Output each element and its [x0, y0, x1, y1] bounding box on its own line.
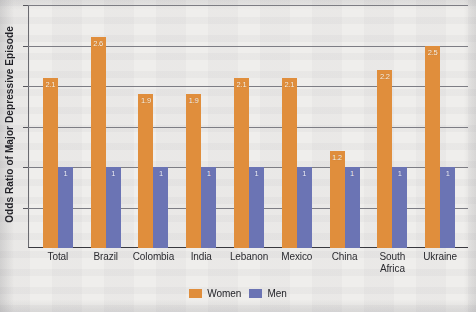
bar-groups: 2.112.611.911.912.112.111.212.212.51 — [28, 5, 468, 248]
x-axis-label-total: Total — [34, 251, 82, 274]
bar-men-china[interactable]: 1 — [345, 167, 360, 248]
bar-value-label: 1.9 — [186, 97, 201, 105]
bar-group: 2.11 — [273, 5, 321, 248]
bar-value-label: 1 — [297, 170, 312, 178]
bar-men-mexico[interactable]: 1 — [297, 167, 312, 248]
bar-men-brazil[interactable]: 1 — [106, 167, 121, 248]
bar-women-brazil[interactable]: 2.6 — [91, 37, 106, 248]
y-axis-title: Odds Ratio of Major Depressive Episode — [0, 0, 20, 248]
x-axis-label-india: India — [177, 251, 225, 274]
bar-value-label: 1.9 — [138, 97, 153, 105]
bar-men-lebanon[interactable]: 1 — [249, 167, 264, 248]
plot-area: 2.112.611.911.912.112.111.212.212.51 — [28, 5, 468, 248]
x-axis-label-ukraine: Ukraine — [416, 251, 464, 274]
bar-value-label: 1.2 — [330, 154, 345, 162]
bar-value-label: 2.6 — [91, 40, 106, 48]
x-axis-label-colombia: Colombia — [130, 251, 178, 274]
women-swatch — [189, 289, 202, 298]
bar-group: 2.61 — [82, 5, 130, 248]
bar-value-label: 1 — [153, 170, 168, 178]
legend-item-women[interactable]: Women — [189, 288, 241, 299]
bar-men-india[interactable]: 1 — [201, 167, 216, 248]
bar-men-south-africa[interactable]: 1 — [392, 167, 407, 248]
bar-group: 2.11 — [225, 5, 273, 248]
bar-value-label: 2.2 — [377, 73, 392, 81]
bar-women-ukraine[interactable]: 2.5 — [425, 46, 440, 249]
bar-women-china[interactable]: 1.2 — [330, 151, 345, 248]
bar-men-colombia[interactable]: 1 — [153, 167, 168, 248]
bar-group: 1.91 — [177, 5, 225, 248]
men-swatch — [249, 289, 262, 298]
legend-label: Men — [267, 288, 286, 299]
bar-group: 1.91 — [130, 5, 178, 248]
x-axis-category-labels: TotalBrazilColombiaIndiaLebanonMexicoChi… — [28, 251, 468, 274]
bar-value-label: 2.1 — [282, 81, 297, 89]
bar-group: 2.11 — [34, 5, 82, 248]
bar-group: 1.21 — [321, 5, 369, 248]
y-axis-title-label: Odds Ratio of Major Depressive Episode — [4, 26, 15, 223]
bar-value-label: 1 — [249, 170, 264, 178]
chart-legend: WomenMen — [0, 288, 476, 299]
bar-value-label: 1 — [58, 170, 73, 178]
x-axis-label-south-africa: SouthAfrica — [368, 251, 416, 274]
bar-value-label: 2.1 — [43, 81, 58, 89]
bar-value-label: 1 — [392, 170, 407, 178]
bar-women-lebanon[interactable]: 2.1 — [234, 78, 249, 248]
bar-value-label: 2.1 — [234, 81, 249, 89]
bar-women-south-africa[interactable]: 2.2 — [377, 70, 392, 248]
legend-label: Women — [207, 288, 241, 299]
x-axis-label-lebanon: Lebanon — [225, 251, 273, 274]
bar-women-india[interactable]: 1.9 — [186, 94, 201, 248]
bar-group: 2.21 — [368, 5, 416, 248]
x-axis-label-brazil: Brazil — [82, 251, 130, 274]
bar-group: 2.51 — [416, 5, 464, 248]
x-axis-label-mexico: Mexico — [273, 251, 321, 274]
bar-women-colombia[interactable]: 1.9 — [138, 94, 153, 248]
legend-item-men[interactable]: Men — [249, 288, 286, 299]
bar-value-label: 1 — [440, 170, 455, 178]
bar-value-label: 1 — [345, 170, 360, 178]
bar-men-total[interactable]: 1 — [58, 167, 73, 248]
x-axis-label-china: China — [321, 251, 369, 274]
bar-women-mexico[interactable]: 2.1 — [282, 78, 297, 248]
bar-value-label: 1 — [106, 170, 121, 178]
bar-men-ukraine[interactable]: 1 — [440, 167, 455, 248]
bar-value-label: 2.5 — [425, 49, 440, 57]
bar-chart-figure: Odds Ratio of Major Depressive Episode 2… — [0, 0, 476, 312]
bar-women-total[interactable]: 2.1 — [43, 78, 58, 248]
bar-value-label: 1 — [201, 170, 216, 178]
